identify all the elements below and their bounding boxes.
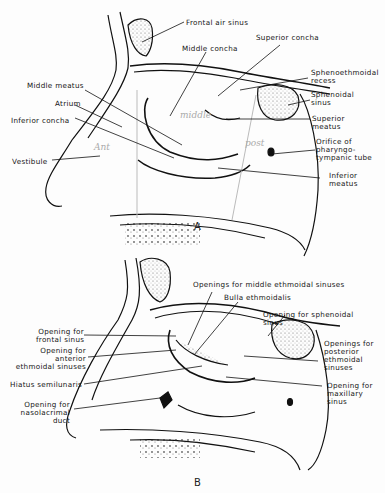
panel-letter-b: B <box>194 477 201 488</box>
svg-text:Ant: Ant <box>93 142 110 152</box>
label-inferior-concha: Inferior concha <box>11 117 70 125</box>
svg-text:post: post <box>245 138 265 148</box>
label-hiatus-semilunaris: Hiatus semilunaris <box>10 381 82 389</box>
label-sphenoidal-sinus: Sphenoidal sinus <box>311 91 354 107</box>
label-superior-meatus: Superior meatus <box>312 115 345 131</box>
label-opening-maxillary-sinus: Opening for maxillary sinus <box>327 382 373 406</box>
label-sphenoethmoidal-recess: Sphenoethmoidal recess <box>311 69 379 85</box>
label-vestibule: Vestibule <box>12 158 48 166</box>
label-orifice-pharyngotympanic-tube: Orifice of pharyngo- tympanic tube <box>316 138 372 162</box>
label-middle-meatus: Middle meatus <box>27 82 84 90</box>
panel-b-drawing <box>67 258 340 470</box>
label-bulla-ethmoidalis: Bulla ethmoidalis <box>224 294 291 302</box>
label-atrium: Atrium <box>55 100 81 108</box>
label-openings-posterior-ethmoidal: Openings for posterior ethmoidal sinuses <box>324 340 374 372</box>
label-opening-nasolacrimal-duct: Opening for nasolacrimal duct <box>14 401 70 425</box>
label-inferior-meatus: Inferior meatus <box>329 172 358 188</box>
label-middle-concha: Middle concha <box>182 45 238 53</box>
panel-letter-a: A <box>194 221 201 232</box>
label-frontal-air-sinus: Frontal air sinus <box>186 19 248 27</box>
label-opening-frontal-sinus: Opening for frontal sinus <box>36 328 84 344</box>
label-openings-middle-ethmoidal: Openings for middle ethmoidal sinuses <box>193 281 345 289</box>
label-opening-anterior-ethmoidal: Opening for anterior ethmoidal sinuses <box>12 347 86 371</box>
label-superior-concha: Superior concha <box>256 34 319 42</box>
panel-a-handwriting: middle Ant post <box>93 110 265 152</box>
handwritten-middle: middle <box>180 110 211 120</box>
label-opening-sphenoidal-sinus: Opening for sphenoidal sinus <box>263 311 354 327</box>
